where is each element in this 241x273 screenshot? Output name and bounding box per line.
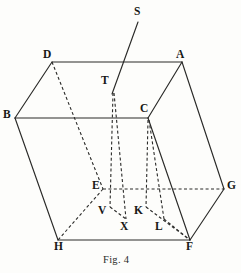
ray-group (112, 22, 138, 94)
vertex-label-a: A (176, 49, 185, 61)
edge-V-X (110, 207, 126, 219)
vertex-label-e: E (92, 180, 100, 192)
figure-container: DASTBCEGVKXLHF Fig. 4 (0, 0, 241, 273)
vertex-label-s: S (134, 6, 141, 18)
edge-D-B (15, 62, 52, 118)
edge-B-H (15, 118, 58, 240)
edge-T-V (110, 93, 113, 207)
vertex-label-k: K (134, 205, 143, 217)
vertex-label-x: X (120, 221, 129, 233)
vertex-label-c: C (140, 103, 149, 115)
figure-caption: Fig. 4 (103, 254, 129, 265)
vertex-label-b: B (3, 109, 11, 121)
vertex-label-g: G (227, 180, 236, 192)
edge-G-F (190, 189, 224, 240)
ray-S-T (112, 22, 138, 94)
edge-C-L (149, 120, 164, 219)
edge-C-K (146, 120, 148, 207)
solid-edge-group (15, 62, 224, 240)
vertex-label-l: L (155, 221, 163, 233)
vertex-label-t: T (101, 75, 109, 87)
edge-T-X (114, 93, 126, 219)
vertex-label-h: H (54, 241, 63, 253)
edge-A-G (182, 62, 224, 189)
vertex-label-d: D (43, 49, 52, 61)
edge-D-E (52, 62, 103, 189)
edge-A-C (148, 62, 182, 118)
edge-E-H (58, 189, 103, 240)
vertex-label-v: V (98, 205, 107, 217)
edge-K-F (146, 207, 190, 240)
vertex-label-f: F (186, 241, 193, 253)
